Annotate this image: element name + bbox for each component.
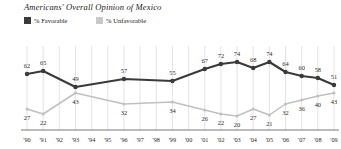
data-label: 22 (40, 119, 46, 126)
x-tick-label: '08 (314, 136, 321, 143)
x-tick-label: '00 (185, 136, 192, 143)
data-label: 22 (218, 119, 224, 126)
data-label: 32 (121, 109, 127, 116)
data-label: 43 (331, 98, 337, 105)
x-tick-label: '94 (88, 136, 95, 143)
x-tick-label: '04 (250, 136, 257, 143)
data-label: 74 (234, 50, 241, 57)
plot-area: 2722433234262220272132364043 62654957556… (0, 38, 341, 149)
legend-item-unfavorable: % Unfavorable (96, 17, 146, 24)
data-label: 62 (24, 62, 30, 69)
data-label: 21 (266, 120, 272, 127)
legend-swatch-favorable (24, 17, 31, 24)
x-tick-label: '09 (330, 136, 337, 143)
data-label: 36 (298, 105, 304, 112)
data-label: 65 (40, 59, 46, 66)
data-label: 51 (331, 73, 337, 80)
x-tick-label: '97 (136, 136, 143, 143)
data-label: 20 (234, 121, 240, 128)
x-tick-label: '91 (40, 136, 47, 143)
x-tick-label: '07 (298, 136, 305, 143)
legend-swatch-unfavorable (96, 17, 103, 24)
gridlines (27, 46, 334, 130)
x-tick-label: '95 (104, 136, 111, 143)
x-tick-label: '90 (23, 136, 30, 143)
data-label: 60 (298, 64, 304, 71)
data-label: 67 (202, 57, 209, 64)
data-label: 57 (121, 67, 128, 74)
legend-label-favorable: % Favorable (34, 17, 68, 24)
legend-label-unfavorable: % Unfavorable (106, 17, 146, 24)
x-tick-label: '98 (153, 136, 160, 143)
data-label: 74 (266, 50, 273, 57)
x-tick-label: '01 (201, 136, 208, 143)
data-label: 32 (282, 109, 288, 116)
data-label: 64 (282, 60, 289, 67)
data-label: 72 (218, 52, 224, 59)
data-label: 26 (202, 115, 208, 122)
x-axis-tick-labels: '90'91'92'93'94'95'96'97'98'99'00'01'02'… (23, 136, 337, 143)
x-tick-label: '03 (233, 136, 240, 143)
data-label: 40 (315, 101, 321, 108)
data-label: 55 (169, 69, 175, 76)
x-tick-label: '92 (56, 136, 63, 143)
x-tick-label: '99 (169, 136, 176, 143)
opinion-line-chart: Americans' Overall Opinion of Mexico % F… (0, 0, 341, 149)
x-tick-label: '06 (282, 136, 289, 143)
data-label: 43 (72, 98, 78, 105)
data-label: 27 (250, 114, 257, 121)
data-label: 49 (72, 75, 78, 82)
x-tick-label: '05 (266, 136, 273, 143)
legend-item-favorable: % Favorable (24, 17, 68, 24)
data-label: 27 (24, 114, 31, 121)
chart-svg: 2722433234262220272132364043 62654957556… (0, 38, 341, 149)
x-tick-label: '96 (120, 136, 127, 143)
data-label: 58 (315, 66, 321, 73)
data-label: 34 (169, 107, 176, 114)
data-label: 68 (250, 56, 256, 63)
x-tick-label: '93 (72, 136, 79, 143)
x-tick-label: '02 (217, 136, 224, 143)
chart-title: Americans' Overall Opinion of Mexico (24, 2, 162, 12)
